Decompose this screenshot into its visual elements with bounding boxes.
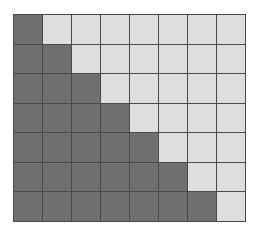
grid-cell-light (217, 192, 245, 221)
grid-cell-dark (130, 133, 158, 162)
grid-cell-light (101, 74, 129, 103)
grid-cell-light (159, 133, 187, 162)
grid-cell-dark (130, 192, 158, 221)
grid-cell-dark (14, 163, 42, 192)
grid-cell-dark (43, 192, 71, 221)
grid-cell-light (188, 45, 216, 74)
grid-cell-light (72, 15, 100, 44)
grid-cell-dark (72, 192, 100, 221)
grid-cell-light (188, 74, 216, 103)
grid-cell-light (101, 15, 129, 44)
grid-cell-dark (43, 133, 71, 162)
grid-cell-light (188, 104, 216, 133)
grid-cell-light (217, 15, 245, 44)
grid-cell-dark (14, 74, 42, 103)
grid-cell-dark (101, 133, 129, 162)
grid-cell-light (188, 163, 216, 192)
grid-cell-light (130, 45, 158, 74)
grid-cell-dark (14, 133, 42, 162)
grid-cell-dark (72, 163, 100, 192)
grid-cell-dark (14, 104, 42, 133)
grid-cell-dark (14, 45, 42, 74)
grid-cell-light (130, 74, 158, 103)
staircase-grid (13, 14, 246, 222)
grid-cell-light (72, 45, 100, 74)
grid-cell-dark (72, 133, 100, 162)
grid-cell-dark (43, 104, 71, 133)
grid-cell-light (159, 74, 187, 103)
grid-cell-light (217, 163, 245, 192)
grid-cell-dark (101, 104, 129, 133)
grid-cell-light (159, 104, 187, 133)
grid-cell-dark (43, 74, 71, 103)
grid-cell-light (130, 104, 158, 133)
grid-cell-light (217, 74, 245, 103)
grid-cell-light (43, 15, 71, 44)
grid-cell-light (217, 133, 245, 162)
grid-cell-dark (72, 104, 100, 133)
grid-cell-dark (43, 163, 71, 192)
grid-cell-light (159, 15, 187, 44)
grid-cell-light (159, 45, 187, 74)
grid-cell-light (217, 104, 245, 133)
grid-cell-dark (14, 15, 42, 44)
grid-cell-light (101, 45, 129, 74)
grid-cell-light (188, 133, 216, 162)
grid-cell-dark (14, 192, 42, 221)
grid-cell-dark (188, 192, 216, 221)
grid-cell-light (188, 15, 216, 44)
grid-cell-light (130, 15, 158, 44)
grid-cell-dark (159, 163, 187, 192)
grid-cell-dark (101, 192, 129, 221)
grid-cell-dark (101, 163, 129, 192)
grid-cell-dark (130, 163, 158, 192)
grid-cell-dark (159, 192, 187, 221)
grid-cell-dark (43, 45, 71, 74)
grid-cell-light (217, 45, 245, 74)
grid-cell-dark (72, 74, 100, 103)
